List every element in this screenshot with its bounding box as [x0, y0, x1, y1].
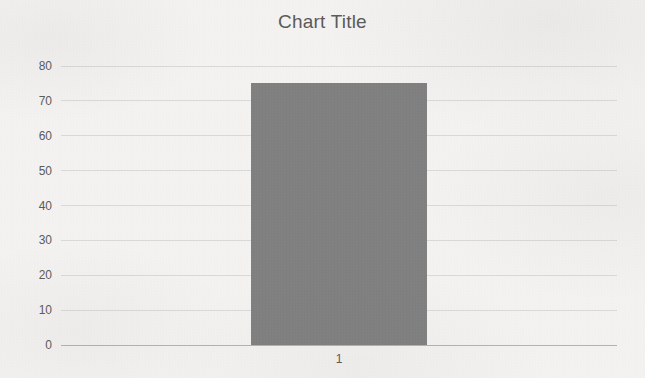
y-axis-tick-label: 0	[45, 339, 52, 351]
y-axis-tick-label: 10	[39, 304, 52, 316]
y-axis-tick-label: 30	[39, 234, 52, 246]
gridline	[61, 66, 617, 67]
x-axis-tick-label: 1	[336, 352, 343, 366]
y-axis-tick-label: 80	[39, 60, 52, 72]
bar	[251, 83, 427, 345]
y-axis-tick-label: 70	[39, 95, 52, 107]
y-axis-tick-label: 40	[39, 200, 52, 212]
y-axis-tick-label: 20	[39, 269, 52, 281]
chart-title: Chart Title	[0, 9, 645, 35]
chart-container: Chart Title 010203040506070801	[0, 0, 645, 378]
y-axis-tick-label: 50	[39, 165, 52, 177]
plot-area: 010203040506070801	[61, 66, 617, 345]
y-axis-tick-label: 60	[39, 130, 52, 142]
